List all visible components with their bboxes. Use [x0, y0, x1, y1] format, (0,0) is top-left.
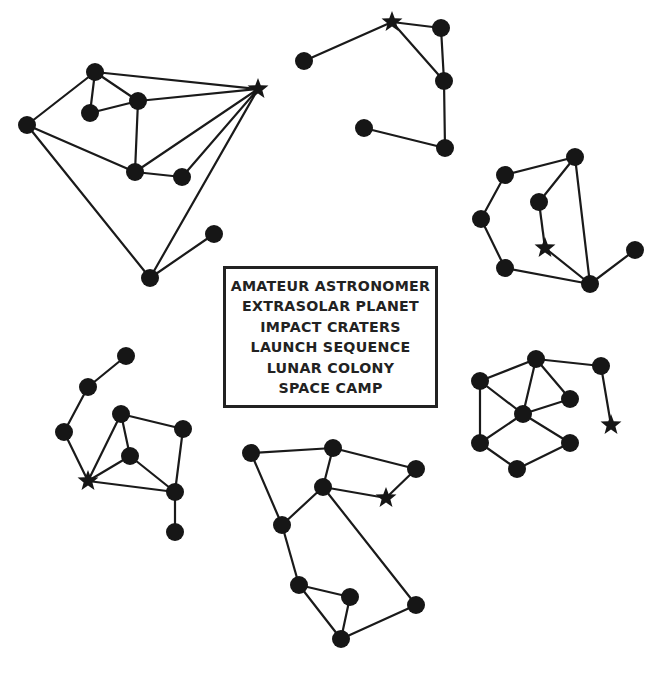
star-dot: [496, 259, 514, 277]
star-icon: [601, 414, 622, 434]
constellation-edge: [575, 157, 590, 284]
star-dot: [530, 193, 548, 211]
constellation-edge: [95, 72, 258, 89]
constellation-top-center-stars: [295, 11, 454, 157]
constellation-edge: [282, 525, 299, 585]
star-dot: [166, 483, 184, 501]
constellation-edge: [175, 429, 183, 492]
star-dot: [407, 596, 425, 614]
star-dot: [514, 405, 532, 423]
star-dot: [592, 357, 610, 375]
constellation-top-center: [304, 22, 445, 148]
constellation-left-lower-stars: [55, 347, 192, 541]
star-dot: [166, 523, 184, 541]
constellation-right-lower-stars: [471, 350, 621, 478]
star-dot: [355, 119, 373, 137]
word-amateur-astronomer: AMATEUR ASTRONOMER: [231, 276, 431, 297]
star-dot: [205, 225, 223, 243]
constellation-edge: [505, 268, 590, 284]
constellation-edge: [505, 157, 575, 175]
constellation-edge: [138, 89, 258, 101]
star-dot: [141, 269, 159, 287]
star-dot: [173, 168, 191, 186]
constellation-edge: [333, 448, 416, 469]
constellation-top-left-stars: [18, 63, 268, 287]
star-dot: [314, 478, 332, 496]
star-dot: [332, 630, 350, 648]
star-dot: [561, 390, 579, 408]
star-dot: [472, 210, 490, 228]
star-dot: [435, 72, 453, 90]
constellation-edge: [251, 448, 333, 453]
star-dot: [527, 350, 545, 368]
constellation-edge: [27, 125, 135, 172]
star-dot: [407, 460, 425, 478]
constellation-edge: [251, 453, 282, 525]
star-dot: [432, 19, 450, 37]
star-dot: [471, 372, 489, 390]
word-list-box: AMATEUR ASTRONOMER EXTRASOLAR PLANET IMP…: [223, 266, 438, 408]
constellation-edge: [444, 81, 445, 148]
star-dot: [129, 92, 147, 110]
word-launch-sequence: LAUNCH SEQUENCE: [251, 337, 411, 358]
star-dot: [81, 104, 99, 122]
star-dot: [242, 444, 260, 462]
constellation-edge: [480, 359, 536, 381]
star-dot: [86, 63, 104, 81]
star-dot: [112, 405, 130, 423]
star-dot: [121, 447, 139, 465]
star-dot: [341, 588, 359, 606]
star-dot: [273, 516, 291, 534]
constellation-bottom-center-stars: [242, 439, 425, 648]
constellation-edge: [121, 414, 183, 429]
star-dot: [566, 148, 584, 166]
constellation-right-lower: [480, 359, 611, 469]
star-dot: [436, 139, 454, 157]
word-space-camp: SPACE CAMP: [278, 378, 382, 399]
star-dot: [55, 423, 73, 441]
star-dot: [117, 347, 135, 365]
star-icon: [382, 11, 403, 31]
star-dot: [79, 378, 97, 396]
constellation-right-upper-stars: [472, 148, 644, 293]
star-dot: [471, 434, 489, 452]
star-dot: [290, 576, 308, 594]
star-dot: [561, 434, 579, 452]
constellation-edge: [27, 125, 150, 278]
star-dot: [126, 163, 144, 181]
word-impact-craters: IMPACT CRATERS: [260, 317, 400, 338]
star-dot: [18, 116, 36, 134]
word-lunar-colony: LUNAR COLONY: [267, 358, 395, 379]
star-dot: [626, 241, 644, 259]
word-extrasolar-planet: EXTRASOLAR PLANET: [242, 296, 419, 317]
constellation-edge: [341, 605, 416, 639]
star-dot: [496, 166, 514, 184]
constellation-edge: [150, 89, 258, 278]
constellation-bottom-center: [251, 448, 416, 639]
star-dot: [581, 275, 599, 293]
constellation-edge: [364, 128, 445, 148]
star-dot: [508, 460, 526, 478]
constellation-edge: [150, 234, 214, 278]
constellation-edge: [536, 359, 601, 366]
star-icon: [78, 470, 99, 490]
constellation-edge: [135, 101, 138, 172]
star-dot: [174, 420, 192, 438]
star-dot: [324, 439, 342, 457]
star-dot: [295, 52, 313, 70]
constellation-edge: [323, 487, 416, 605]
constellation-edge: [323, 487, 386, 498]
constellation-edge: [304, 22, 392, 61]
